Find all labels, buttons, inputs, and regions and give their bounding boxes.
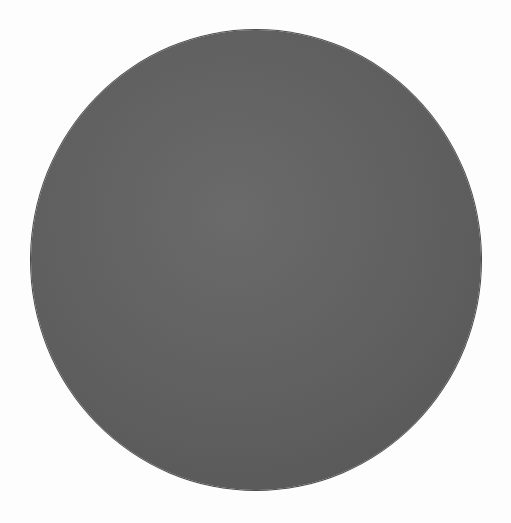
gray-circle <box>31 30 481 490</box>
